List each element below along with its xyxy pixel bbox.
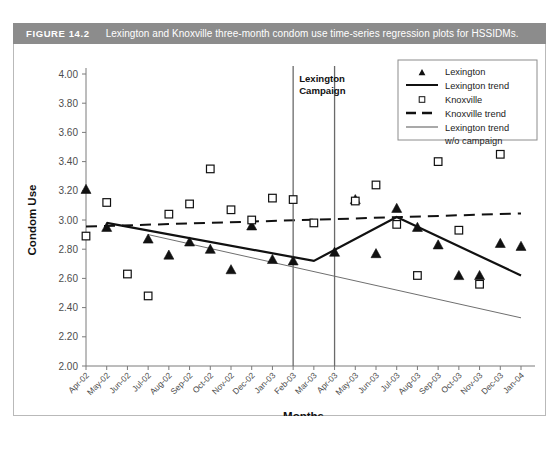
legend-label-0: Lexington xyxy=(445,67,485,77)
data-point-knoxville xyxy=(393,221,401,229)
svg-text:2.60: 2.60 xyxy=(59,273,79,284)
data-point-knoxville xyxy=(269,194,277,202)
data-point-knoxville xyxy=(455,226,463,234)
data-point-lexington xyxy=(516,241,526,250)
data-point-lexington xyxy=(454,270,464,279)
svg-text:3.40: 3.40 xyxy=(59,156,79,167)
svg-text:Jun-02: Jun-02 xyxy=(107,370,132,395)
data-point-lexington xyxy=(267,254,277,263)
data-point-lexington xyxy=(164,250,174,259)
svg-text:Lexington: Lexington xyxy=(299,73,345,84)
data-point-knoxville xyxy=(124,270,132,278)
legend-marker-open-square xyxy=(419,97,425,103)
data-point-knoxville xyxy=(289,196,297,204)
svg-text:3.20: 3.20 xyxy=(59,185,79,196)
data-point-knoxville xyxy=(372,181,380,189)
data-point-knoxville xyxy=(206,165,214,173)
svg-text:Mar-03: Mar-03 xyxy=(293,370,319,396)
data-point-lexington xyxy=(475,270,485,279)
data-point-lexington xyxy=(392,203,402,212)
campaign-annotation: LexingtonCampaign xyxy=(299,73,346,96)
data-point-knoxville xyxy=(165,210,173,218)
data-point-knoxville xyxy=(248,216,256,224)
data-point-knoxville xyxy=(414,272,422,280)
data-point-knoxville xyxy=(103,199,111,207)
svg-text:Jun-03: Jun-03 xyxy=(356,370,381,395)
data-point-lexington xyxy=(433,240,443,249)
data-point-knoxville xyxy=(227,206,235,214)
data-point-lexington xyxy=(81,184,91,193)
figure-caption-bar: FIGURE 14.2 Lexington and Knoxville thre… xyxy=(13,23,546,44)
data-point-knoxville xyxy=(144,292,152,300)
svg-text:4.00: 4.00 xyxy=(59,69,79,80)
data-point-knoxville xyxy=(496,151,504,159)
figure-number: FIGURE 14.2 xyxy=(26,28,90,39)
svg-text:2.00: 2.00 xyxy=(59,361,79,372)
svg-text:3.80: 3.80 xyxy=(59,98,79,109)
svg-text:3.00: 3.00 xyxy=(59,215,79,226)
svg-text:Sep-02: Sep-02 xyxy=(168,370,194,396)
data-point-knoxville xyxy=(351,197,359,205)
data-point-knoxville xyxy=(476,280,484,288)
data-point-knoxville xyxy=(82,232,90,240)
figure-caption-text: Lexington and Knoxville three-month cond… xyxy=(106,28,519,39)
data-point-lexington xyxy=(412,222,422,231)
svg-text:Feb-03: Feb-03 xyxy=(272,370,298,396)
data-point-lexington xyxy=(371,249,381,258)
svg-text:Dec-03: Dec-03 xyxy=(479,370,505,396)
figure-body-panel: 4.003.803.603.403.203.002.802.602.402.20… xyxy=(13,44,546,416)
svg-text:2.80: 2.80 xyxy=(59,244,79,255)
chart-plot-area: 4.003.803.603.403.203.002.802.602.402.20… xyxy=(14,44,547,416)
svg-text:May-03: May-03 xyxy=(333,370,360,397)
svg-text:Condom Use: Condom Use xyxy=(26,185,38,256)
data-point-knoxville xyxy=(310,219,318,227)
svg-text:2.20: 2.20 xyxy=(59,331,79,342)
figure-container: FIGURE 14.2 Lexington and Knoxville thre… xyxy=(0,0,558,461)
chart-legend: LexingtonLexington trendKnoxvilleKnoxvil… xyxy=(398,60,537,146)
svg-text:Sep-03: Sep-03 xyxy=(417,370,443,396)
legend-label-1: Lexington trend xyxy=(445,81,509,91)
data-point-lexington xyxy=(226,265,236,274)
svg-text:Months: Months xyxy=(283,410,324,416)
legend-label-3: Knoxville trend xyxy=(445,109,506,119)
svg-text:May-02: May-02 xyxy=(85,370,112,397)
legend-label-2: Knoxville xyxy=(445,95,482,105)
svg-text:Dec-02: Dec-02 xyxy=(230,370,256,396)
svg-text:3.60: 3.60 xyxy=(59,127,79,138)
legend-label-4: Lexington trend xyxy=(445,123,509,133)
data-point-knoxville xyxy=(434,158,442,166)
svg-text:2.40: 2.40 xyxy=(59,302,79,313)
condom-use-scatter-chart: 4.003.803.603.403.203.002.802.602.402.20… xyxy=(14,44,547,416)
svg-text:Jan-04: Jan-04 xyxy=(501,370,526,395)
svg-text:Campaign: Campaign xyxy=(299,85,346,96)
legend-label-4-line2: w/o campaign xyxy=(444,136,502,146)
campaign-markers xyxy=(293,66,334,366)
data-point-lexington xyxy=(495,238,505,247)
data-point-knoxville xyxy=(186,200,194,208)
